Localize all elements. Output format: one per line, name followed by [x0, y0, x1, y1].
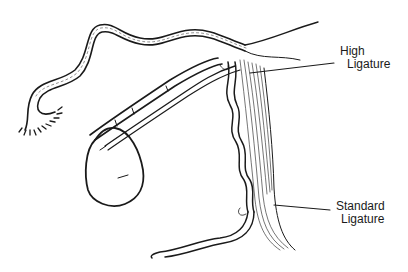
- diagonal-cord: [90, 58, 240, 150]
- standard-ligature-label-line2: Ligature: [341, 213, 385, 226]
- standard-ligature-label: Standard Ligature: [336, 200, 385, 226]
- upper-wavy-tube: [19, 22, 318, 135]
- high-ligature-label-line2: Ligature: [347, 58, 390, 71]
- lower-branch-vessel: [151, 212, 254, 258]
- high-ligature-leader: [250, 63, 334, 73]
- vertical-ligament: [240, 60, 295, 250]
- high-ligature-label: High Ligature: [340, 45, 390, 71]
- standard-ligature-leader: [274, 205, 330, 210]
- anatomical-illustration: [0, 0, 408, 272]
